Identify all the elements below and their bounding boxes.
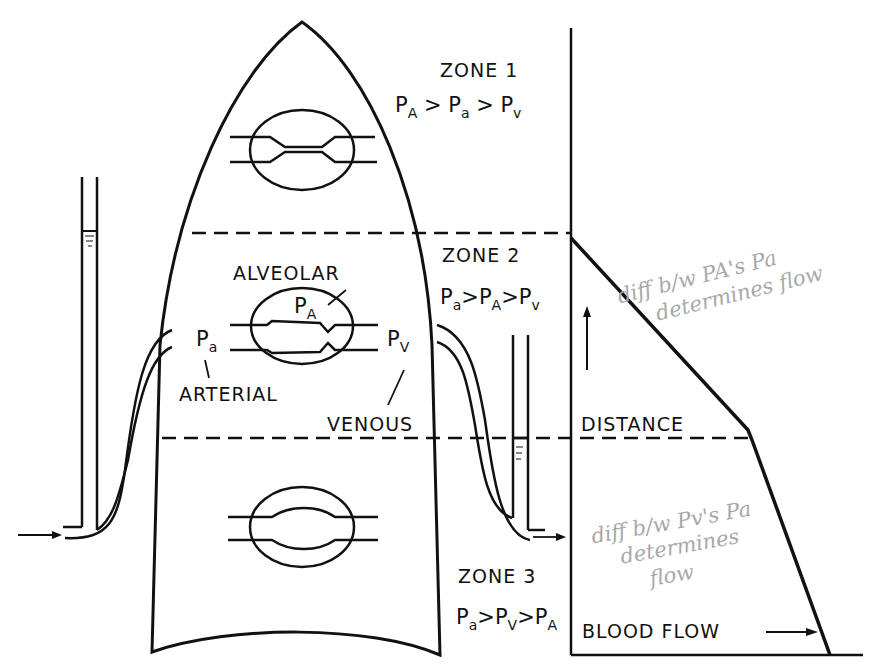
blood-flow-arrow [766, 628, 818, 636]
venous-label: VENOUS [327, 413, 413, 435]
zone3-inequality: Pa>PV>PA [456, 605, 557, 633]
outflow-arrow [533, 533, 566, 541]
arterial-manometer [63, 177, 97, 530]
p-arterial-label: Pa [196, 327, 217, 355]
inflow-arrow [18, 531, 62, 539]
venous-leader [388, 370, 404, 405]
venous-tube [437, 325, 530, 540]
arterial-leader [205, 360, 209, 378]
blood-flow-label: BLOOD FLOW [582, 620, 720, 642]
p-alveolar-label: PA [294, 294, 317, 322]
zone1-alveolus [230, 110, 377, 190]
zone2-title: ZONE 2 [442, 244, 520, 266]
venous-manometer [513, 335, 545, 530]
lung-zones-diagram: ZONE 1 PA > Pa > Pv ZONE 2 Pa>PA>Pv ZONE… [0, 0, 875, 672]
svg-text:flow: flow [646, 560, 696, 592]
zone3-alveolus [228, 487, 378, 567]
alveolar-label: ALVEOLAR [233, 262, 340, 284]
zone1-title: ZONE 1 [440, 59, 518, 81]
distance-label: DISTANCE [581, 413, 684, 435]
distance-arrow [583, 306, 591, 370]
p-venous-label: PV [387, 327, 410, 355]
zone2-inequality: Pa>PA>Pv [440, 285, 540, 313]
arterial-label: ARTERIAL [179, 383, 278, 405]
zone3-title: ZONE 3 [458, 565, 536, 587]
zone1-inequality: PA > Pa > Pv [395, 93, 521, 121]
handwritten-note-zone3: diff b/w Pv's Pa determines flow [589, 497, 762, 600]
